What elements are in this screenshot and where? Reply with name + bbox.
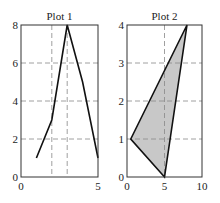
x-tick-label: 0 <box>124 180 130 192</box>
y-tick-label: 4 <box>119 19 125 31</box>
plot-title: Plot 1 <box>47 10 73 22</box>
y-tick-label: 6 <box>13 57 19 69</box>
chart-figure: Plot 10246805 Plot 2012340510 <box>0 0 220 203</box>
x-tick-label: 5 <box>162 180 168 192</box>
y-tick-label: 4 <box>13 95 19 107</box>
x-tick-label: 0 <box>18 180 24 192</box>
y-tick-label: 3 <box>119 57 125 69</box>
plot-2: Plot 2012340510 <box>119 10 209 192</box>
x-tick-label: 10 <box>197 180 209 192</box>
plot-1: Plot 10246805 <box>13 10 102 192</box>
x-tick-label: 5 <box>95 180 101 192</box>
y-tick-label: 8 <box>13 19 19 31</box>
y-tick-label: 1 <box>119 133 125 145</box>
y-tick-label: 2 <box>119 95 125 107</box>
plot-title: Plot 2 <box>152 10 178 22</box>
y-tick-label: 2 <box>13 133 19 145</box>
